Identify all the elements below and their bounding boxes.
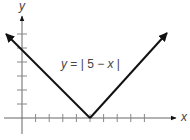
eq-end: | bbox=[113, 57, 119, 71]
equation-label: y = | 5 − x | bbox=[61, 58, 120, 70]
eq-body: = | 5 − bbox=[67, 57, 107, 71]
y-axis-label: y bbox=[19, 0, 25, 12]
x-axis-label: x bbox=[181, 111, 187, 123]
abs-value-graph bbox=[6, 33, 167, 118]
